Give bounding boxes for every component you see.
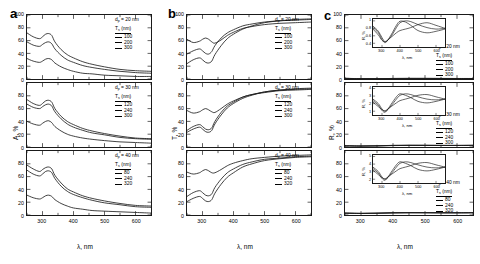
legend-line-icon — [275, 116, 282, 117]
y-tick-label: 0 — [170, 145, 184, 151]
legend-ts-header: Ts (nm) — [436, 189, 452, 197]
inset-plot-dp30 — [372, 86, 446, 116]
inset-x-axis-label: λ, nm — [402, 191, 412, 196]
y-tick-label: 0 — [170, 213, 184, 219]
y-tick-label: 80 — [10, 24, 24, 30]
legend-line-icon — [436, 143, 443, 144]
y-tick-label: 20 — [170, 200, 184, 206]
legend-line-icon — [436, 132, 443, 133]
legend-line-icon — [115, 42, 122, 43]
legend-entry: 320 — [275, 182, 299, 188]
y-tick-label: 0 — [10, 77, 24, 83]
inset-y-tick-label: 2 — [362, 102, 371, 106]
x-tick-label: 600 — [292, 218, 301, 224]
legend-line-icon — [115, 110, 122, 111]
x-axis-label-a: λ, nm — [77, 243, 93, 250]
legend-b-dp20: dp = 20 nmTs (nm)100200300 — [275, 17, 299, 51]
legend-line-icon — [275, 42, 282, 43]
legend-line-icon — [436, 200, 443, 201]
y-tick-label: 0 — [328, 77, 342, 83]
inset-y-tick-label: 3 — [362, 170, 371, 174]
legend-line-icon — [115, 105, 122, 106]
y-tick-label: 0 — [328, 213, 342, 219]
y-tick-label: 60 — [170, 37, 184, 43]
x-tick-label: 600 — [132, 218, 141, 224]
inset-x-tick-label: 400 — [397, 117, 403, 121]
legend-line-icon — [115, 173, 122, 174]
legend-ts-header: Ts (nm) — [115, 26, 131, 34]
legend-dp-label: dp = 40 nm — [275, 153, 299, 160]
inset-curve-ts-200 — [373, 21, 445, 43]
legend-entry: 300 — [115, 46, 139, 52]
y-tick-label: 80 — [328, 24, 342, 30]
y-tick-label: 60 — [10, 173, 24, 179]
y-tick-label: 80 — [10, 92, 24, 98]
legend-line-icon — [436, 75, 443, 76]
legend-line-icon — [275, 173, 282, 174]
y-tick-label: 0 — [328, 145, 342, 151]
y-tick-label: 20 — [328, 64, 342, 70]
y-tick-label: 80 — [170, 92, 184, 98]
inset-y-tick-label: 0.4 — [362, 42, 371, 46]
panel-a: aA, %λ, nm020406080100dp = 20 nmTs (nm)1… — [0, 0, 160, 264]
x-axis-label-b: λ, nm — [237, 243, 253, 250]
legend-dp-label: dp = 30 nm — [115, 85, 139, 92]
legend-entry: 300 — [436, 73, 460, 79]
legend-a-dp30: dp = 30 nmTs (nm)120240300 — [115, 85, 139, 119]
y-tick-label: 40 — [170, 51, 184, 57]
inset-y-tick-label: 0.8 — [362, 26, 371, 30]
inset-x-axis-label: λ, nm — [402, 123, 412, 128]
curve-ts-300 — [27, 58, 151, 76]
legend-line-icon — [436, 137, 443, 138]
x-tick-label: 500 — [260, 218, 269, 224]
legend-line-icon — [275, 184, 282, 185]
y-tick-label: 40 — [328, 187, 342, 193]
inset-y-tick-label: 2 — [362, 178, 371, 182]
y-tick-label: 20 — [10, 132, 24, 138]
legend-dp-label: dp = 30 nm — [275, 85, 299, 92]
legend-dp-label: dp = 20 nm — [275, 17, 299, 24]
y-tick-label: 20 — [170, 64, 184, 70]
y-tick-label: 20 — [328, 200, 342, 206]
inset-x-tick-label: 400 — [397, 185, 403, 189]
legend-entry: 320 — [436, 209, 460, 215]
y-tick-label: 80 — [328, 92, 342, 98]
inset-y-tick-label: 4 — [362, 86, 371, 90]
inset-x-tick-label: 300 — [378, 49, 384, 53]
inset-y-tick-label: 1 — [362, 110, 371, 114]
y-tick-label: 0 — [10, 145, 24, 151]
legend-dp-label: dp = 40 nm — [115, 153, 139, 160]
legend-line-icon — [115, 178, 122, 179]
y-tick-label: 60 — [328, 37, 342, 43]
y-tick-label: 40 — [170, 187, 184, 193]
legend-entry: 300 — [275, 46, 299, 52]
x-axis-label-c: λ, nm — [397, 243, 413, 250]
legend-b-dp40: dp = 40 nmTs (nm)80240320 — [275, 153, 299, 187]
x-tick-label: 500 — [421, 218, 430, 224]
x-tick-label: 400 — [229, 218, 238, 224]
legend-entry: 300 — [436, 141, 460, 147]
inset-x-tick-label: 400 — [397, 49, 403, 53]
y-tick-label: 0 — [170, 77, 184, 83]
legend-ts-header: Ts (nm) — [275, 94, 291, 102]
legend-ts-header: Ts (nm) — [115, 162, 131, 170]
legend-line-icon — [115, 184, 122, 185]
y-tick-label: 20 — [328, 132, 342, 138]
x-tick-label: 300 — [197, 218, 206, 224]
y-tick-label: 40 — [10, 187, 24, 193]
legend-line-icon — [115, 48, 122, 49]
inset-y-tick-label: 5 — [362, 154, 371, 158]
y-tick-label: 80 — [10, 160, 24, 166]
legend-dp-label: dp = 20 nm — [115, 17, 139, 24]
y-tick-label: 80 — [170, 24, 184, 30]
y-tick-label: 60 — [10, 105, 24, 111]
legend-line-icon — [436, 69, 443, 70]
legend-b-dp30: dp = 30 nmTs (nm)120240300 — [275, 85, 299, 119]
inset-plot-dp40 — [372, 154, 446, 184]
legend-entry-label: 320 — [445, 208, 453, 215]
legend-entry-label: 300 — [124, 45, 132, 52]
legend-ts-header: Ts (nm) — [275, 26, 291, 34]
legend-line-icon — [436, 205, 443, 206]
legend-line-icon — [436, 211, 443, 212]
x-tick-label: 300 — [356, 218, 365, 224]
